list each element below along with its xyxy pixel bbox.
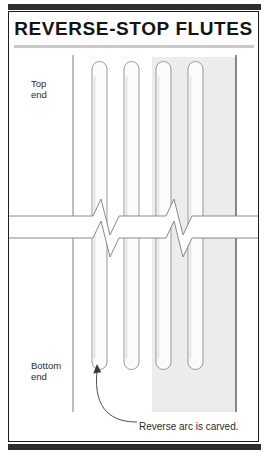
label-bottom-end-line1: Bottom xyxy=(31,360,61,371)
label-top-end-line2: end xyxy=(31,89,47,100)
plate-root: REVERSE-STOP FLUTES xyxy=(0,0,269,456)
page-title: REVERSE-STOP FLUTES xyxy=(14,18,253,40)
callout-leader xyxy=(93,364,137,422)
callout-caption: Reverse arc is carved. xyxy=(139,421,238,432)
title-underrule xyxy=(14,45,254,48)
label-bottom-end: Bottomend xyxy=(31,360,61,382)
top-rule-bar xyxy=(8,4,261,10)
label-top-end-line1: Top xyxy=(31,78,46,89)
label-top-end: Topend xyxy=(31,78,47,100)
diagram-canvas xyxy=(9,49,258,441)
title-block: REVERSE-STOP FLUTES xyxy=(9,12,258,46)
bottom-rule-bar xyxy=(8,444,261,450)
label-bottom-end-line2: end xyxy=(31,371,47,382)
